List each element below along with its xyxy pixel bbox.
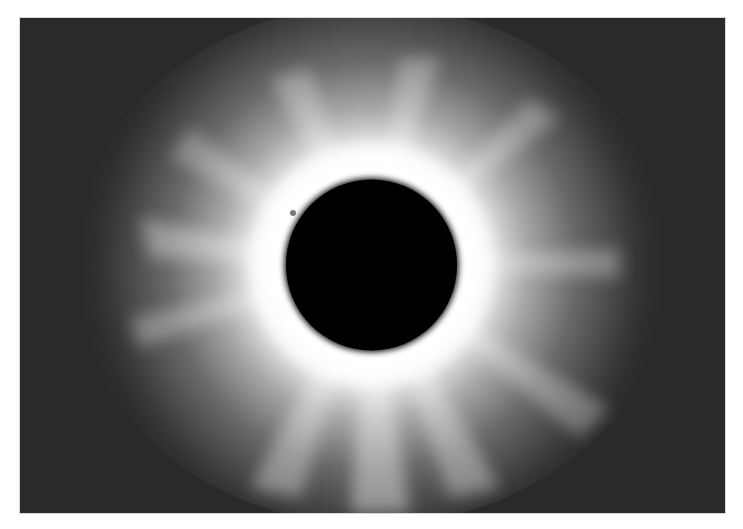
eclipse-graphic [20,18,725,513]
prominence [290,210,296,216]
eclipse-photo [20,18,725,513]
moon-core [286,180,457,351]
